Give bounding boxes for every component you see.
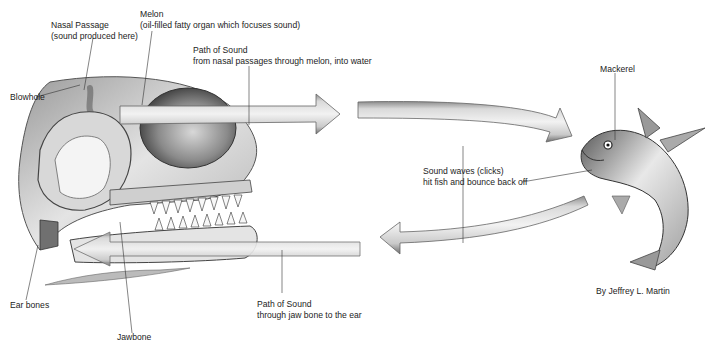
return-arrow-1: [380, 196, 588, 254]
label-path-in: Path of Sound through jaw bone to the ea…: [257, 299, 362, 321]
echolocation-diagram: Nasal Passage (sound produced here) Melo…: [0, 0, 711, 354]
label-ear-bones: Ear bones: [10, 300, 49, 311]
label-jawbone: Jawbone: [117, 332, 151, 343]
mackerel-drawing: [581, 108, 705, 270]
label-blowhole: Blowhole: [10, 92, 45, 103]
label-sound-waves: Sound waves (clicks) hit fish and bounce…: [423, 166, 527, 188]
outgoing-arrow-2: [358, 102, 572, 142]
label-path-out: Path of Sound from nasal passages throug…: [193, 45, 372, 67]
label-nasal-passage: Nasal Passage (sound produced here): [51, 20, 138, 42]
melon-organ: [140, 88, 236, 168]
label-mackerel: Mackerel: [600, 64, 635, 75]
artist-credit: By Jeffrey L. Martin: [596, 286, 670, 297]
label-melon: Melon (oil-filled fatty organ which focu…: [140, 9, 300, 31]
